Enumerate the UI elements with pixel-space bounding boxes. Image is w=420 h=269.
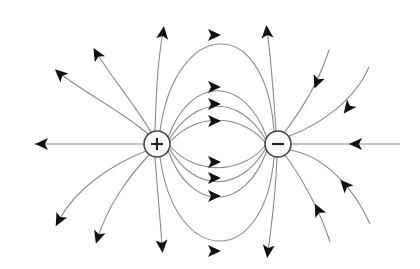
arrowhead-icon [90,229,105,245]
positive-charge [144,131,170,157]
arrowheads-group [35,25,362,259]
arrowhead-icon [208,156,221,168]
charges-group [144,131,291,157]
arrowhead-icon [339,100,356,118]
field-line-mid-top-2 [169,106,266,140]
field-line-pos-down-left-1 [59,151,146,220]
arrowhead-icon [88,45,105,62]
field-line-incoming-upper-right-1 [284,50,329,133]
field-line-neg-up [267,30,276,131]
arrowhead-icon [51,65,69,83]
arrowhead-icon [261,244,274,258]
field-line-pos-down [155,157,162,246]
arrowhead-icon [50,212,67,229]
arrowhead-icon [309,74,325,91]
field-line-mid-top-3 [170,120,265,142]
field-line-incoming-lower-right-1 [289,150,370,224]
field-line-mid-bottom-1 [170,146,265,168]
field-line-incoming-upper-right-2 [287,67,369,137]
arrowhead-icon [309,201,326,218]
arrowhead-icon [208,29,221,41]
field-lines-group [34,30,400,251]
field-line-pos-up-left-1 [58,72,148,134]
arrowhead-icon [260,25,273,39]
arrowhead-icon [208,98,221,110]
field-line-pos-up [155,32,163,131]
field-line-pos-down-left-2 [98,155,149,237]
arrowhead-icon [156,25,170,40]
field-line-pos-up-left-2 [96,52,151,132]
field-line-incoming-lower-right-2 [285,155,330,242]
electric-field-diagram [0,0,420,269]
arrowhead-icon [208,245,221,257]
negative-charge [265,131,291,157]
